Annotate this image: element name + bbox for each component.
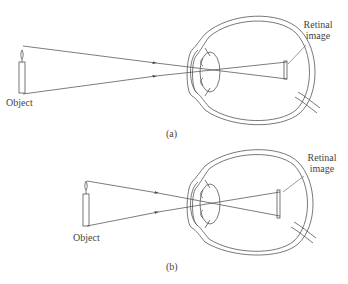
caption-a: (a) bbox=[166, 128, 177, 139]
panel-a bbox=[19, 16, 320, 125]
retinal-label-line1-b: Retinal bbox=[300, 152, 344, 163]
object-label-a: Object bbox=[6, 97, 33, 108]
retinal-label-line1-a: Retinal bbox=[296, 19, 340, 30]
retinal-label-line2-b: image bbox=[300, 163, 344, 174]
candle-object-icon-b bbox=[83, 181, 89, 226]
candle-object-icon-a bbox=[19, 50, 25, 93]
retinal-image-label-b: Retinal image bbox=[300, 152, 344, 174]
panel-b bbox=[83, 150, 316, 255]
eye-diagram-canvas bbox=[0, 0, 348, 284]
caption-b: (b) bbox=[166, 261, 178, 272]
retinal-image-label-a: Retinal image bbox=[296, 19, 340, 41]
light-rays-a bbox=[23, 46, 287, 94]
light-rays-b bbox=[87, 181, 280, 226]
retinal-label-line2-a: image bbox=[296, 30, 340, 41]
object-label-b: Object bbox=[73, 232, 100, 243]
